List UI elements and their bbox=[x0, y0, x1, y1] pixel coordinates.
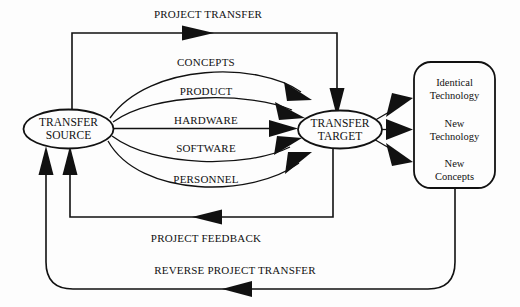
label-project-transfer: PROJECT TRANSFER bbox=[154, 8, 263, 20]
outcome-middle-arrowhead bbox=[386, 119, 413, 140]
edge-target-to-identical-technology bbox=[372, 93, 413, 122]
outcome-new-concepts-line2: Concepts bbox=[435, 171, 474, 182]
label-product: PRODUCT bbox=[180, 85, 233, 97]
outcome-new-technology-line1: New bbox=[445, 118, 465, 129]
project-feedback-arrowhead-up bbox=[63, 146, 78, 175]
label-project-feedback: PROJECT FEEDBACK bbox=[151, 232, 261, 244]
outcome-identical-technology-line2: Technology bbox=[430, 90, 480, 101]
edge-target-to-new-concepts bbox=[372, 138, 413, 166]
channel-personnel-arrowhead bbox=[285, 152, 312, 174]
label-hardware: HARDWARE bbox=[174, 114, 238, 126]
channel-product-arrowhead bbox=[275, 102, 305, 120]
label-reverse-project-transfer: REVERSE PROJECT TRANSFER bbox=[154, 264, 316, 276]
transfer-target-label-line2: TARGET bbox=[318, 130, 362, 142]
label-software: SOFTWARE bbox=[176, 142, 236, 154]
transfer-target-label-line1: TRANSFER bbox=[311, 117, 370, 129]
outcome-new-concepts-line1: New bbox=[445, 158, 465, 169]
diagram-canvas: TRANSFER SOURCE TRANSFER TARGET Identica… bbox=[0, 0, 520, 307]
project-feedback-arrowhead bbox=[192, 210, 222, 225]
node-transfer-target[interactable]: TRANSFER TARGET bbox=[298, 111, 382, 149]
project-transfer-arrowhead bbox=[182, 26, 214, 41]
project-transfer-path bbox=[72, 33, 337, 123]
edge-project-transfer bbox=[72, 26, 345, 124]
channel-hardware-arrowhead bbox=[269, 120, 298, 137]
technology-transfer-diagram: TRANSFER SOURCE TRANSFER TARGET Identica… bbox=[0, 0, 520, 307]
transfer-source-label-line2: SOURCE bbox=[46, 129, 91, 141]
outcome-new-technology-line2: Technology bbox=[430, 131, 480, 142]
outcome-lower-arrowhead bbox=[386, 143, 413, 166]
transfer-source-label-line1: TRANSFER bbox=[39, 116, 98, 128]
reverse-project-transfer-arrowhead-up bbox=[39, 146, 54, 175]
node-transfer-source[interactable]: TRANSFER SOURCE bbox=[24, 110, 114, 149]
channel-concepts-arrowhead bbox=[284, 82, 312, 101]
label-personnel: PERSONNEL bbox=[173, 173, 238, 185]
node-outcomes-box[interactable]: Identical Technology New Technology New … bbox=[414, 62, 495, 188]
reverse-project-transfer-arrowhead bbox=[222, 281, 252, 297]
outcome-upper-arrowhead bbox=[386, 93, 413, 117]
outcome-identical-technology-line1: Identical bbox=[436, 77, 473, 88]
label-concepts: CONCEPTS bbox=[177, 56, 235, 68]
